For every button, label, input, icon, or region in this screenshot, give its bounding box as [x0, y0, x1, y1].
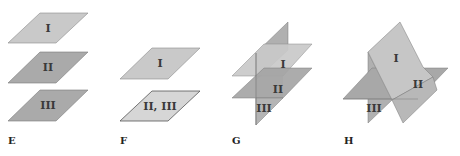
plane-label: II, III: [143, 100, 176, 113]
panel-label-f: F: [120, 135, 127, 146]
panel-h: I II III H: [343, 22, 448, 146]
plane-label: III: [40, 99, 55, 112]
plane-label: II: [413, 78, 423, 91]
plane-label: I: [157, 57, 162, 70]
plane-label: II: [43, 61, 53, 74]
plane-label: I: [280, 58, 285, 71]
plane-label: III: [366, 102, 381, 115]
panel-label-e: E: [8, 135, 16, 146]
panel-f: I II, III F: [120, 48, 200, 146]
panel-label-h: H: [344, 135, 353, 146]
plane-label: III: [256, 102, 271, 115]
panel-e: I II III E: [8, 13, 88, 146]
plane-label: II: [273, 83, 283, 96]
panel-g: I II III G: [232, 22, 312, 146]
plane-label: I: [393, 52, 398, 65]
plane-label: I: [45, 22, 50, 35]
panel-label-g: G: [232, 135, 241, 146]
planes-figure: I II III E I II, III F I II III G: [0, 0, 460, 156]
